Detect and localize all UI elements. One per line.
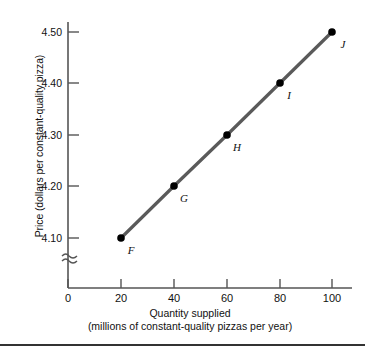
x-axis-title-line2: (millions of constant-quality pizzas per… bbox=[40, 320, 340, 333]
footer-divider bbox=[0, 344, 365, 346]
x-tick-label: 40 bbox=[168, 292, 180, 304]
data-point-marker bbox=[328, 28, 336, 36]
x-tick-label: 80 bbox=[274, 292, 286, 304]
supply-curve-figure: Price (dollars per constant-quality pizz… bbox=[0, 0, 365, 354]
x-axis-title-line1: Quantity supplied bbox=[40, 307, 340, 320]
axis-break-icon bbox=[62, 254, 77, 263]
x-axis-ticks bbox=[68, 279, 332, 288]
x-axis-title: Quantity supplied (millions of constant-… bbox=[40, 307, 340, 333]
data-point-label-h: H bbox=[233, 141, 241, 153]
data-point-marker bbox=[170, 182, 178, 190]
y-axis-ticks bbox=[68, 32, 79, 238]
data-point-marker bbox=[223, 131, 231, 139]
x-tick-label: 0 bbox=[65, 292, 71, 304]
data-point-label-i: I bbox=[287, 89, 291, 101]
x-tick-label: 100 bbox=[323, 292, 341, 304]
data-point-marker bbox=[117, 234, 125, 242]
data-point-label-g: G bbox=[180, 192, 188, 204]
data-point-label-j: J bbox=[341, 38, 346, 50]
x-tick-label: 20 bbox=[115, 292, 127, 304]
data-point-marker bbox=[276, 79, 284, 87]
data-point-label-f: F bbox=[128, 244, 135, 256]
x-tick-label: 60 bbox=[221, 292, 233, 304]
